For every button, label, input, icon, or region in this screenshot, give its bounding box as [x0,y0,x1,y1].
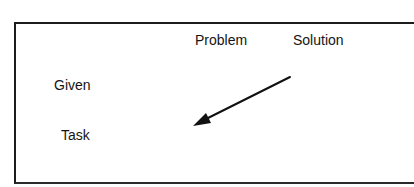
row-label-task: Task [61,127,90,143]
row-label-given: Given [54,77,91,93]
column-header-solution: Solution [293,32,344,48]
column-header-problem: Problem [195,32,247,48]
